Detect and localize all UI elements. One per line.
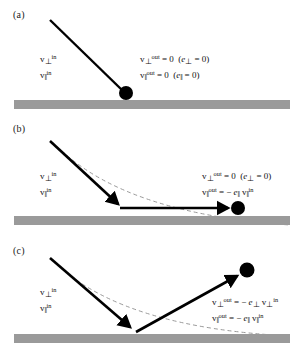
panel-a: (a) v⊥in v‖in v⊥out = 0 (e⊥ = 0) v‖out =…: [0, 0, 307, 118]
panel-b: (b) v⊥in: [0, 118, 307, 236]
equation-par-b: v‖out = − e‖ v‖in: [202, 188, 253, 197]
incoming-par-label-a: v‖in: [40, 71, 52, 80]
particle-ball-b: [231, 201, 245, 215]
incoming-perp-label-b: v⊥in: [40, 172, 56, 181]
particle-ball-a: [119, 86, 133, 100]
ground-surface-c: [14, 334, 290, 343]
equation-perp-a: v⊥out = 0 (e⊥ = 0): [140, 55, 209, 64]
incoming-trajectory-b: [50, 141, 118, 204]
particle-ball-c: [240, 263, 255, 278]
dashed-reference-curve-b: [62, 151, 290, 225]
panel-c: (c) v⊥in: [0, 236, 307, 356]
incoming-trajectory-a: [50, 20, 122, 90]
equation-perp-b: v⊥out = 0 (e⊥ = 0): [202, 172, 271, 181]
equation-par-a: v‖out = 0 (e‖ = 0): [140, 71, 199, 80]
ground-surface-b: [14, 216, 290, 225]
collision-figure: (a) v⊥in v‖in v⊥out = 0 (e⊥ = 0) v‖out =…: [0, 0, 307, 356]
equation-par-c: v‖out = − e‖ v‖in: [212, 314, 263, 323]
equation-perp-c: v⊥out = − e⊥ v⊥in: [212, 298, 278, 307]
ground-surface-a: [14, 100, 290, 109]
incoming-perp-label-c: v⊥in: [40, 288, 56, 297]
incoming-par-label-b: v‖in: [40, 188, 52, 197]
incoming-par-label-c: v‖in: [40, 304, 52, 313]
incoming-trajectory-c: [50, 258, 130, 327]
incoming-perp-label-a: v⊥in: [40, 55, 56, 64]
